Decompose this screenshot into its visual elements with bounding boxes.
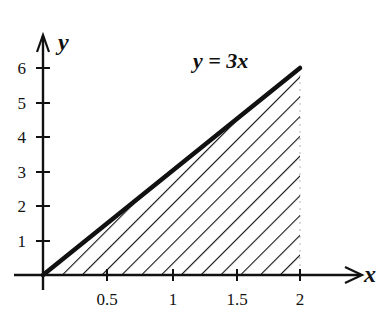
y-axis [36, 35, 50, 290]
y-tick-label: 5 [18, 94, 27, 113]
y-axis-label: y [55, 29, 69, 55]
y-tick-label: 1 [18, 232, 27, 251]
chart: 0.5 1 1.5 2 1 2 3 4 5 6 y x y = 3x [0, 0, 390, 327]
y-tick-label: 3 [18, 163, 27, 182]
y-tick-label: 4 [18, 128, 27, 147]
x-axis-label: x [363, 261, 376, 287]
x-tick-label: 0.5 [96, 290, 117, 309]
y-tick-label: 6 [18, 59, 27, 78]
x-tick-label: 1 [169, 290, 178, 309]
x-tick-label: 1.5 [226, 290, 247, 309]
y-tick-label: 2 [18, 197, 27, 216]
x-tick-label: 2 [296, 290, 305, 309]
equation-label: y = 3x [190, 48, 248, 73]
